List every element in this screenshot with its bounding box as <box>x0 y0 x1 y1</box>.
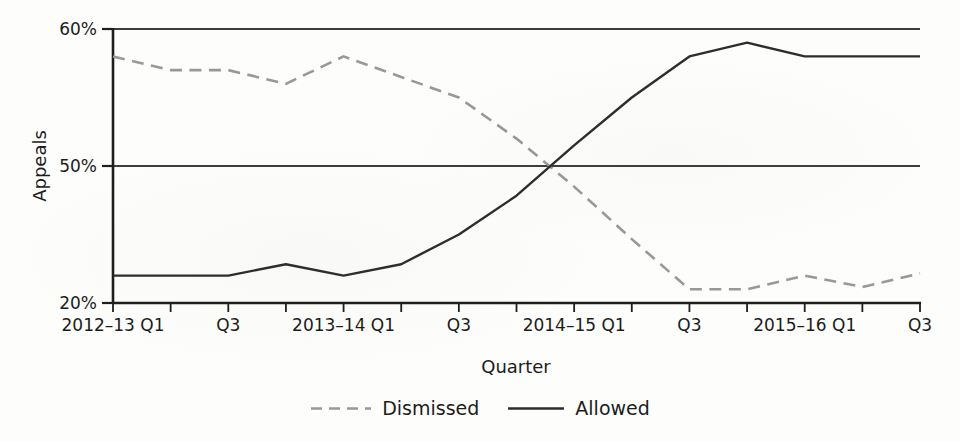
legend-label-allowed: Allowed <box>575 397 649 419</box>
allowed-line <box>113 43 920 276</box>
legend: Dismissed Allowed <box>0 397 960 419</box>
x-tick-label: 2012–13 Q1 <box>62 315 165 335</box>
x-tick-label: Q3 <box>677 315 701 335</box>
y-tick-label-60: 60% <box>59 19 97 39</box>
x-tick-label: Q3 <box>447 315 471 335</box>
legend-item-allowed: Allowed <box>507 397 649 419</box>
x-tick-label: Q3 <box>216 315 240 335</box>
x-tick-label: Q3 <box>908 315 932 335</box>
y-tick-label-20: 20% <box>59 293 97 313</box>
dismissed-line <box>113 56 920 289</box>
x-axis-title: Quarter <box>481 356 551 377</box>
dismissed-line-sample-icon <box>310 405 372 412</box>
x-tick-label: 2015–16 Q1 <box>753 315 856 335</box>
y-axis-title: Appeals <box>29 130 50 202</box>
legend-item-dismissed: Dismissed <box>310 397 479 419</box>
x-tick-label: 2013–14 Q1 <box>292 315 395 335</box>
allowed-line-sample-icon <box>507 405 565 412</box>
legend-label-dismissed: Dismissed <box>382 397 479 419</box>
y-tick-label-50: 50% <box>59 156 97 176</box>
x-tick-label: 2014–15 Q1 <box>523 315 626 335</box>
plot-area: 20%50%60%2012–13 Q1Q32013–14 Q1Q32014–15… <box>0 0 960 441</box>
appeals-outcome-chart: 20%50%60%2012–13 Q1Q32013–14 Q1Q32014–15… <box>0 0 960 441</box>
